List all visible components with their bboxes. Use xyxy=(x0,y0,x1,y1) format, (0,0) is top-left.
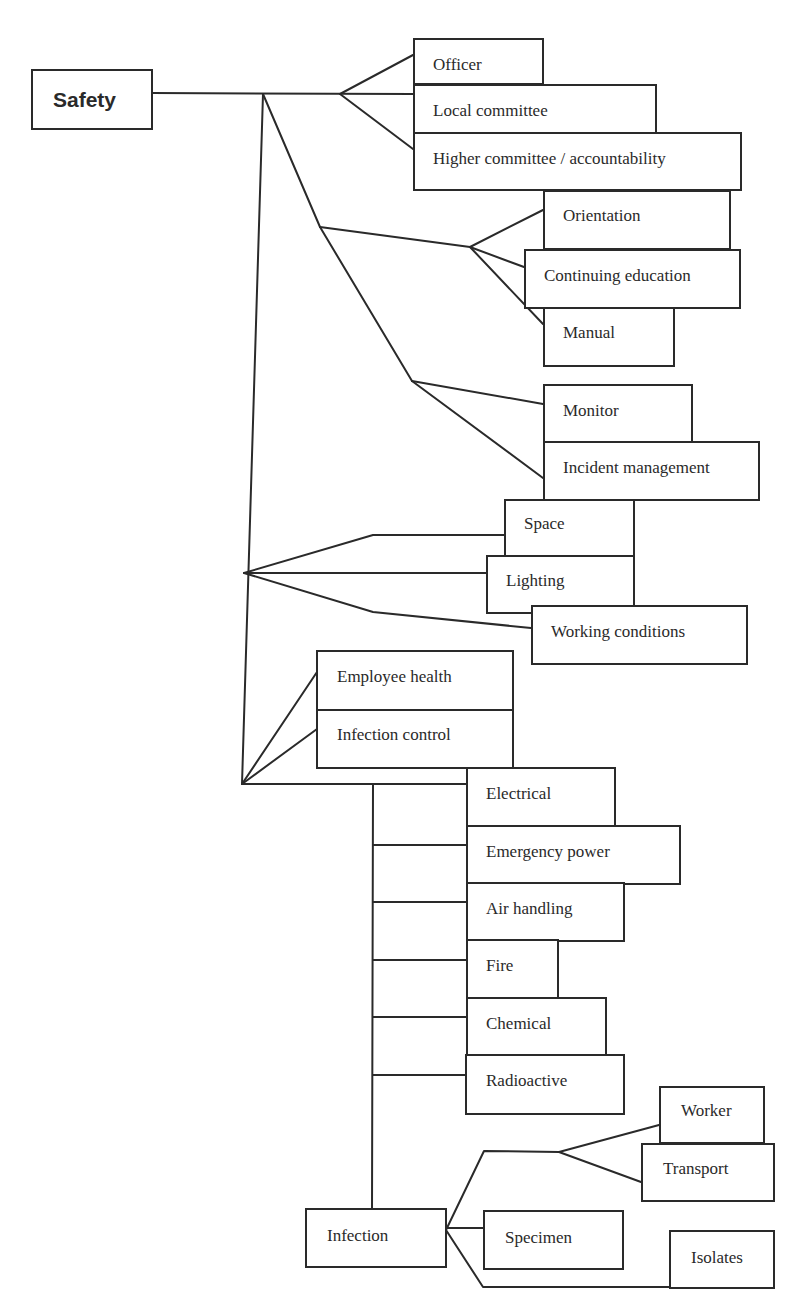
node-specimen: Specimen xyxy=(483,1210,624,1270)
node-transport: Transport xyxy=(641,1143,775,1202)
node-label: Air handling xyxy=(486,900,572,917)
node-label: Lighting xyxy=(506,572,565,589)
node-label: Infection control xyxy=(337,726,451,743)
node-label: Fire xyxy=(486,957,513,974)
node-label: Isolates xyxy=(691,1249,743,1266)
node-orientation: Orientation xyxy=(543,190,731,250)
node-label: Safety xyxy=(53,89,116,110)
node-label: Local committee xyxy=(433,102,548,119)
node-space: Space xyxy=(504,499,635,557)
node-employee-health: Employee health xyxy=(316,650,514,711)
node-higher-committee: Higher committee / accountability xyxy=(413,132,742,191)
node-isolates: Isolates xyxy=(669,1230,775,1289)
node-label: Transport xyxy=(663,1160,729,1177)
node-electrical: Electrical xyxy=(466,767,616,827)
node-infection: Infection xyxy=(305,1208,447,1268)
node-label: Manual xyxy=(563,324,615,341)
safety-diagram: Safety Officer Local committee Higher co… xyxy=(0,0,804,1313)
node-monitor: Monitor xyxy=(543,384,693,443)
node-incident-management: Incident management xyxy=(543,441,760,501)
node-label: Electrical xyxy=(486,785,551,802)
node-manual: Manual xyxy=(543,307,675,367)
node-label: Officer xyxy=(433,56,482,73)
node-local-committee: Local committee xyxy=(413,84,657,134)
node-worker: Worker xyxy=(659,1086,765,1144)
node-label: Space xyxy=(524,515,565,532)
node-label: Employee health xyxy=(337,668,452,685)
node-air-handling: Air handling xyxy=(466,882,625,942)
node-label: Chemical xyxy=(486,1015,551,1032)
node-label: Specimen xyxy=(505,1229,572,1246)
node-radioactive: Radioactive xyxy=(465,1054,625,1115)
node-infection-control: Infection control xyxy=(316,709,514,769)
node-safety: Safety xyxy=(31,69,153,130)
node-label: Orientation xyxy=(563,207,640,224)
node-working-conditions: Working conditions xyxy=(531,605,748,665)
node-label: Monitor xyxy=(563,402,619,419)
node-chemical: Chemical xyxy=(466,997,607,1057)
node-label: Infection xyxy=(327,1227,388,1244)
node-continuing-education: Continuing education xyxy=(524,249,741,309)
node-officer: Officer xyxy=(413,38,544,85)
node-label: Continuing education xyxy=(544,267,691,284)
node-label: Worker xyxy=(681,1102,732,1119)
node-label: Incident management xyxy=(563,459,710,476)
node-label: Working conditions xyxy=(551,623,685,640)
node-label: Emergency power xyxy=(486,843,610,860)
node-fire: Fire xyxy=(466,939,559,999)
node-label: Higher committee / accountability xyxy=(433,150,666,167)
node-emergency-power: Emergency power xyxy=(466,825,681,885)
node-label: Radioactive xyxy=(486,1072,567,1089)
